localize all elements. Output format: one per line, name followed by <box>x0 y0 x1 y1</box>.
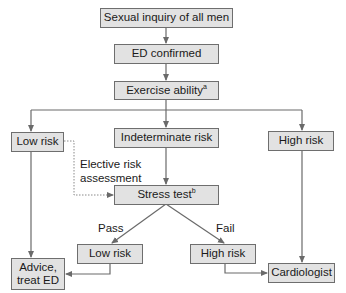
node-high-risk-after-test: High risk <box>190 244 256 264</box>
node-label: Indeterminate risk <box>121 131 212 144</box>
edge-label-pass: Pass <box>98 222 124 236</box>
node-indeterminate-risk: Indeterminate risk <box>114 128 219 148</box>
node-exercise-ability: Exercise abilitya <box>114 81 219 100</box>
node-label: High risk <box>201 247 246 260</box>
node-low-risk-after-test: Low risk <box>77 244 143 264</box>
node-label: Low risk <box>89 247 131 260</box>
node-label-line1: Advice, <box>19 261 57 274</box>
edge-label-elective: Elective risk assessment <box>80 158 141 186</box>
node-advice-treat-ed: Advice, treat ED <box>11 258 65 290</box>
node-sexual-inquiry: Sexual inquiry of all men <box>100 8 233 28</box>
node-high-risk-initial: High risk <box>268 131 334 151</box>
node-cardiologist: Cardiologist <box>268 263 335 283</box>
node-label: High risk <box>279 134 324 147</box>
edge-high-to-cardiologist <box>225 263 267 273</box>
node-low-risk-initial: Low risk <box>11 132 64 152</box>
node-label: Low risk <box>16 135 58 148</box>
node-label: Stress testb <box>137 188 195 201</box>
node-label-line2: treat ED <box>17 274 59 287</box>
edge-low-to-advice <box>66 263 110 274</box>
footnote-marker: b <box>192 188 196 195</box>
node-ed-confirmed: ED confirmed <box>114 44 219 64</box>
footnote-marker: a <box>203 83 207 90</box>
node-stress-test: Stress testb <box>114 185 219 205</box>
node-label: Sexual inquiry of all men <box>104 11 229 24</box>
node-label: ED confirmed <box>132 47 202 60</box>
node-label: Exercise abilitya <box>126 84 207 97</box>
node-label: Cardiologist <box>271 266 332 279</box>
edge-label-fail: Fail <box>216 222 235 236</box>
